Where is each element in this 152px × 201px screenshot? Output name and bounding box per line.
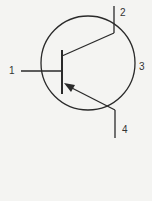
- terminal-label-4: 4: [122, 125, 128, 135]
- collector-diagonal: [62, 33, 114, 56]
- transistor-symbol: [0, 0, 152, 201]
- terminal-label-1: 1: [9, 66, 15, 76]
- terminal-label-2: 2: [120, 8, 126, 18]
- terminal-label-3: 3: [139, 62, 145, 72]
- emitter-diagonal: [68, 86, 115, 110]
- transistor-diagram: 1 2 3 4: [0, 0, 152, 201]
- emitter-arrow-icon: [64, 83, 75, 92]
